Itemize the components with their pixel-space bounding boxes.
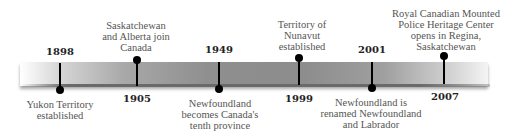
event-year: 1905 [112,93,162,104]
event-label: Territory of Nunavut established [262,19,342,52]
event-label: Yukon Territory established [10,99,110,121]
event-marker-dot [215,85,223,93]
event-year: 2007 [420,91,470,102]
event-marker-dot [368,84,376,92]
event-stem [298,58,300,85]
event-label: Royal Canadian Mounted Police Heritage C… [384,8,508,52]
event-year: 1898 [35,46,85,57]
event-label: Newfoundland is renamed Newfoundland and… [310,97,432,130]
timeline-bar-shadow [20,84,490,87]
timeline-bar [20,62,488,86]
event-label: Newfoundland becomes Canada's tenth prov… [170,98,270,131]
event-label: Saskatchewan and Alberta join Canada [88,20,184,53]
event-stem [443,56,445,84]
event-marker-dot [56,86,64,94]
event-stem [136,60,138,86]
event-year: 1949 [194,44,244,55]
